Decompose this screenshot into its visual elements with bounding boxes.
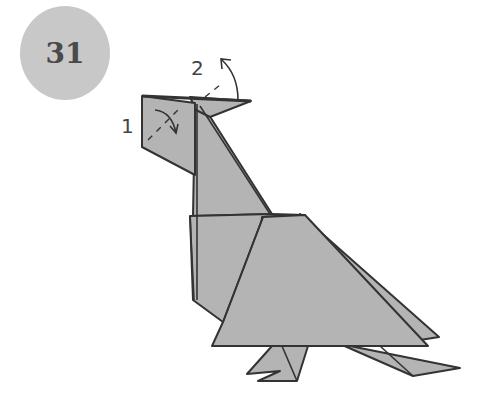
head: [142, 96, 195, 175]
origami-bird-diagram: [0, 0, 494, 403]
arrow-2-icon: [222, 60, 238, 100]
foot-back: [247, 346, 308, 381]
tail-lower: [340, 344, 460, 376]
